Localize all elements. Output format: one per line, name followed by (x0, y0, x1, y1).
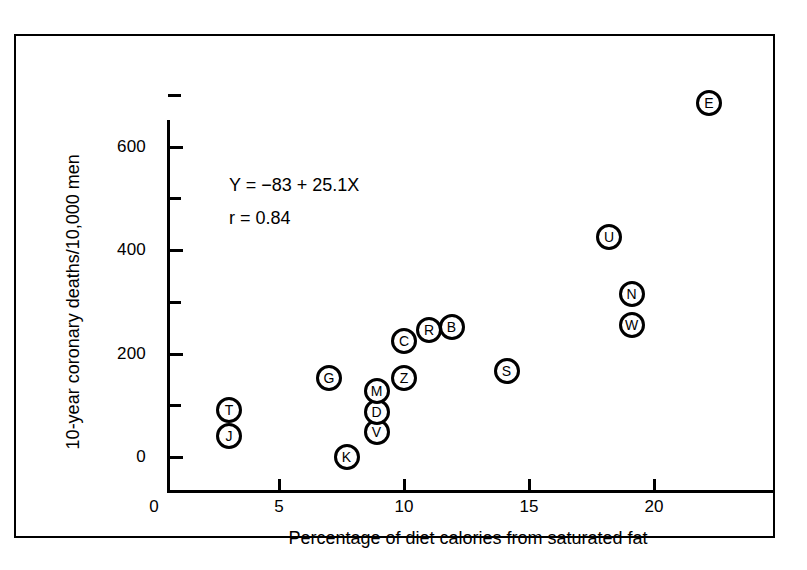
x-axis-tick (528, 479, 531, 492)
data-point-T: T (216, 397, 242, 423)
y-axis-tick (168, 456, 183, 459)
y-axis-tick (168, 146, 183, 149)
data-point-M: M (364, 378, 390, 404)
data-point-C: C (391, 328, 417, 354)
y-axis-minor-tick (168, 94, 181, 97)
figure-border: 0200400600 05101520 TJKGVDMZCRBSUWNE Y =… (14, 34, 775, 538)
data-point-W: W (619, 312, 645, 338)
data-point-J: J (216, 423, 242, 449)
y-axis-tick (168, 249, 183, 252)
data-point-R: R (416, 317, 442, 343)
y-axis-minor-tick (168, 301, 181, 304)
x-axis-tick-label: 0 (134, 498, 174, 515)
data-point-E: E (696, 90, 722, 116)
data-point-N: N (619, 281, 645, 307)
x-axis-tick (278, 479, 281, 492)
x-axis-tick (403, 479, 406, 492)
y-axis-minor-tick (168, 404, 181, 407)
regression-annotation: Y = −83 + 25.1Xr = 0.84 (229, 169, 359, 236)
data-point-K: K (334, 444, 360, 470)
scatter-plot-area: 0200400600 05101520 TJKGVDMZCRBSUWNE Y =… (16, 36, 773, 536)
x-axis-tick-label: 10 (384, 498, 424, 515)
y-axis-tick-label: 400 (100, 241, 146, 258)
data-point-S: S (494, 358, 520, 384)
y-axis-tick (168, 353, 183, 356)
annotation-line-2: r = 0.84 (229, 202, 359, 235)
data-point-Z: Z (391, 365, 417, 391)
y-axis-tick-label: 600 (100, 138, 146, 155)
y-axis-line (167, 120, 170, 493)
y-axis-title: 10-year coronary deaths/10,000 men (63, 122, 85, 482)
annotation-line-1: Y = −83 + 25.1X (229, 169, 359, 202)
data-point-U: U (596, 224, 622, 250)
x-axis-line (167, 490, 774, 493)
y-axis-tick-label: 0 (100, 448, 146, 465)
x-axis-tick-label: 5 (259, 498, 299, 515)
x-axis-tick-label: 15 (509, 498, 549, 515)
data-point-G: G (316, 365, 342, 391)
y-axis-tick-label: 200 (100, 345, 146, 362)
y-axis-minor-tick (168, 197, 181, 200)
data-point-B: B (439, 314, 465, 340)
x-axis-title: Percentage of diet calories from saturat… (168, 528, 768, 550)
x-axis-tick (653, 479, 656, 492)
x-axis-tick-label: 20 (634, 498, 674, 515)
